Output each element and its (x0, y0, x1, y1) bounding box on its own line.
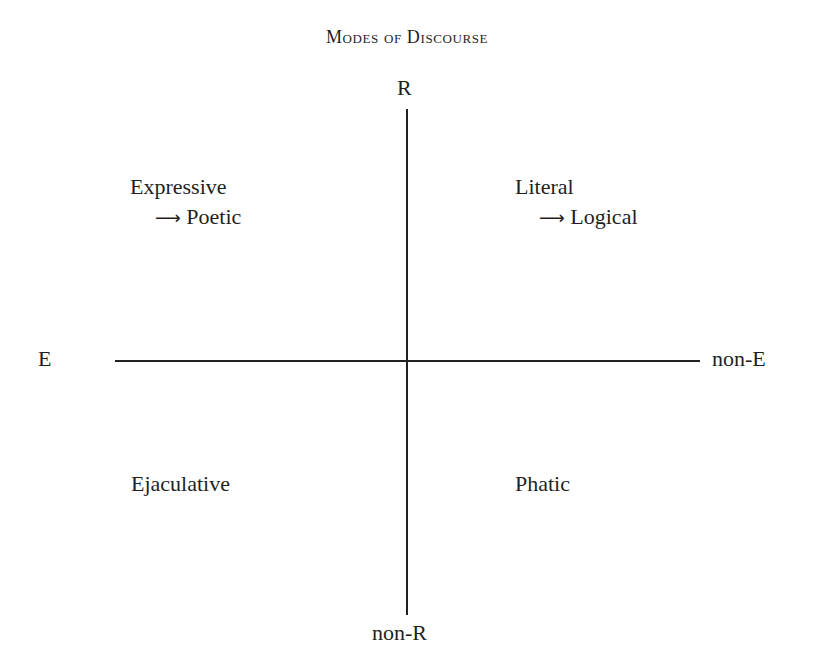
right-arrow-icon: ⟶ (539, 207, 565, 228)
quadrant-label-literal: Literal (515, 176, 574, 198)
quadrant-label-poetic: Poetic (186, 204, 241, 229)
quadrant-label-phatic: Phatic (515, 473, 570, 495)
quadrant-sublabel-logical-row: ⟶ Logical (539, 206, 638, 228)
right-arrow-icon: ⟶ (155, 207, 181, 228)
axis-label-r: R (397, 77, 412, 99)
quadrant-label-ejaculative: Ejaculative (131, 473, 230, 495)
vertical-axis-line (406, 109, 408, 615)
axis-label-non-r: non-R (372, 622, 427, 644)
axis-label-non-e: non-E (712, 348, 766, 370)
axis-label-e: E (38, 348, 51, 370)
diagram-title: Modes of Discourse (0, 27, 814, 48)
quadrant-label-expressive: Expressive (130, 176, 227, 198)
horizontal-axis-line (115, 360, 700, 362)
quadrant-label-logical: Logical (570, 204, 637, 229)
quadrant-sublabel-poetic-row: ⟶ Poetic (155, 206, 241, 228)
